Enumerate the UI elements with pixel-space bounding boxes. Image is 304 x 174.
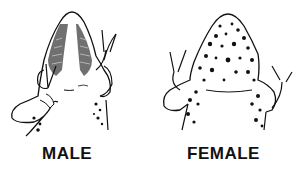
female-label: FEMALE bbox=[187, 144, 260, 164]
male-frog-illustration bbox=[0, 0, 150, 140]
female-frog-illustration bbox=[140, 0, 304, 140]
female-frog-drawing-icon bbox=[140, 0, 304, 140]
male-label: MALE bbox=[42, 144, 92, 164]
male-frog-drawing-icon bbox=[0, 0, 150, 140]
